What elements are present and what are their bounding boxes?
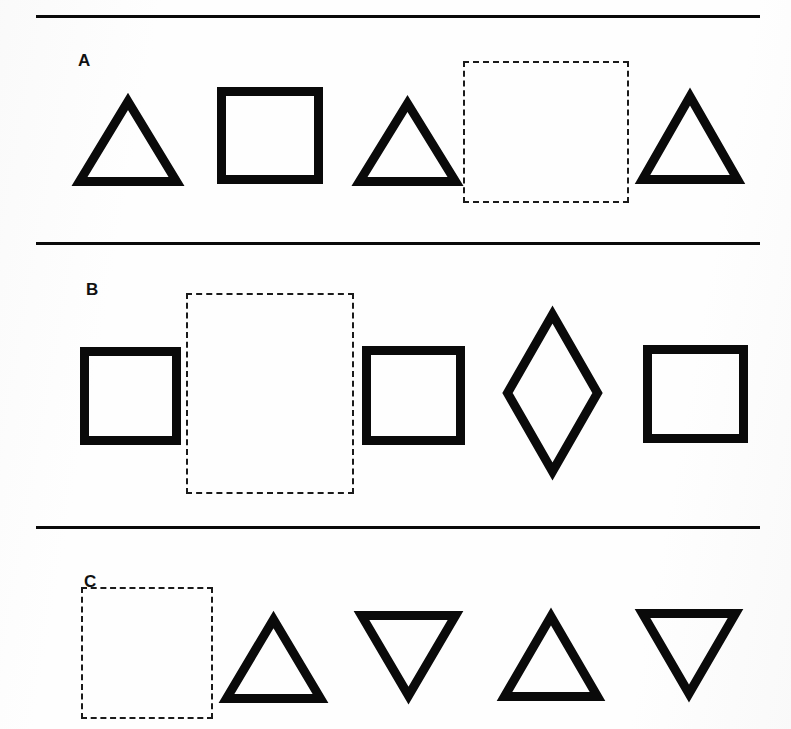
- rule-bottom: [36, 526, 760, 529]
- row-label-b: B: [86, 281, 98, 298]
- row-b-slot-3-square-icon: [362, 346, 465, 445]
- row-a-slot-2-square-icon: [217, 87, 323, 184]
- row-b-slot-2-missing-shape-box[interactable]: [186, 293, 354, 494]
- row-c-slot-5-triangle-down-icon: [637, 609, 741, 699]
- row-a-slot-4-missing-shape-box[interactable]: [463, 61, 629, 203]
- row-a-slot-5-triangle-up-icon: [637, 91, 743, 184]
- row-c-slot-4-triangle-up-icon: [499, 611, 603, 701]
- puzzle-sheet: ABC: [0, 0, 791, 729]
- row-c-slot-3-triangle-down-icon: [356, 611, 461, 701]
- row-b-slot-1-square-icon: [80, 347, 181, 445]
- row-b-slot-5-square-icon: [643, 345, 748, 443]
- row-c-slot-1-missing-shape-box[interactable]: [81, 587, 213, 719]
- rule-middle: [36, 242, 760, 245]
- row-a-slot-3-triangle-up-icon: [354, 98, 461, 186]
- row-b-slot-4-diamond-icon: [503, 310, 602, 476]
- rule-top: [36, 15, 760, 18]
- row-label-a: A: [78, 52, 90, 69]
- row-a-slot-1-triangle-up-icon: [74, 96, 182, 186]
- row-c-slot-2-triangle-up-icon: [221, 614, 326, 703]
